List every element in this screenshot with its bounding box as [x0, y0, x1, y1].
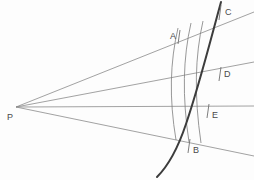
point-label-P: P	[7, 113, 13, 122]
thick-curve-group	[157, 2, 221, 177]
point-label-B: B	[193, 146, 199, 155]
point-label-E: E	[212, 111, 218, 120]
point-label-D: D	[224, 70, 231, 79]
point-label-C: C	[225, 8, 232, 17]
ray-to-E	[16, 106, 254, 107]
ray-to-D	[16, 62, 254, 107]
point-label-A: A	[170, 32, 176, 41]
geometry-diagram: ACDEBP	[0, 0, 254, 180]
diagram-canvas	[0, 0, 254, 180]
ray-to-B	[16, 107, 254, 156]
tick-D	[219, 67, 221, 81]
rays-group	[16, 12, 254, 156]
parabola-arc	[157, 2, 221, 177]
ray-to-C	[16, 12, 254, 107]
